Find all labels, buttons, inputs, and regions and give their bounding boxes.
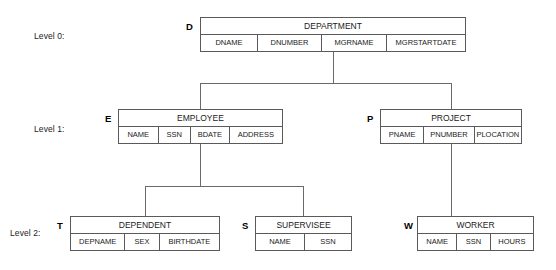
- record-box-dependent[interactable]: DEPENDENT DEPNAME SEX BIRTHDATE: [70, 216, 220, 251]
- record-title-project: PROJECT: [381, 110, 521, 127]
- connector-project-riser: [451, 83, 452, 109]
- field-depname: DEPNAME: [71, 234, 125, 250]
- field-worker-hours: HOURS: [491, 234, 533, 250]
- hierarchical-schema-diagram: Level 0: Level 1: Level 2: D DEPARTMENT …: [0, 0, 556, 270]
- field-worker-name: NAME: [418, 234, 457, 250]
- level-label-2: Level 2:: [10, 228, 41, 238]
- field-employee-address: ADDRESS: [230, 127, 282, 143]
- record-tag-employee: E: [105, 113, 111, 124]
- connector-level1-bus: [145, 186, 304, 187]
- record-fields-department: DNAME DNUMBER MGRNAME MGRSTARTDATE: [201, 35, 465, 51]
- connector-employee-drop: [200, 142, 201, 186]
- record-title-worker: WORKER: [418, 217, 533, 234]
- field-employee-name: NAME: [119, 127, 159, 143]
- record-fields-worker: NAME SSN HOURS: [418, 234, 533, 250]
- connector-department-drop: [333, 51, 334, 83]
- field-dnumber: DNUMBER: [258, 35, 322, 51]
- record-tag-worker: W: [404, 220, 413, 231]
- level-label-1: Level 1:: [34, 124, 65, 134]
- field-supervisee-ssn: SSN: [305, 234, 351, 250]
- record-tag-supervisee: S: [242, 220, 248, 231]
- connector-project-worker: [451, 142, 452, 216]
- field-worker-ssn: SSN: [457, 234, 490, 250]
- record-title-supervisee: SUPERVISEE: [256, 217, 351, 234]
- field-supervisee-name: NAME: [256, 234, 305, 250]
- record-tag-project: P: [367, 113, 373, 124]
- connector-level0-bus: [200, 83, 452, 84]
- record-fields-project: PNAME PNUMBER PLOCATION: [381, 127, 521, 143]
- field-birthdate: BIRTHDATE: [160, 234, 219, 250]
- record-box-project[interactable]: PROJECT PNAME PNUMBER PLOCATION: [380, 109, 522, 144]
- field-plocation: PLOCATION: [475, 127, 521, 143]
- record-fields-supervisee: NAME SSN: [256, 234, 351, 250]
- field-dname: DNAME: [201, 35, 258, 51]
- field-mgrstartdate: MGRSTARTDATE: [387, 35, 465, 51]
- level-label-0: Level 0:: [34, 31, 65, 41]
- record-tag-department: D: [186, 21, 193, 32]
- connector-dependent-riser: [145, 186, 146, 216]
- record-box-employee[interactable]: EMPLOYEE NAME SSN BDATE ADDRESS: [118, 109, 283, 144]
- record-tag-dependent: T: [57, 220, 63, 231]
- field-sex: SEX: [125, 234, 160, 250]
- record-title-dependent: DEPENDENT: [71, 217, 219, 234]
- record-box-worker[interactable]: WORKER NAME SSN HOURS: [417, 216, 534, 251]
- connector-employee-riser: [200, 83, 201, 109]
- record-title-employee: EMPLOYEE: [119, 110, 282, 127]
- field-pname: PNAME: [381, 127, 424, 143]
- field-mgrname: MGRNAME: [322, 35, 387, 51]
- record-fields-dependent: DEPNAME SEX BIRTHDATE: [71, 234, 219, 250]
- record-box-supervisee[interactable]: SUPERVISEE NAME SSN: [255, 216, 352, 251]
- record-box-department[interactable]: DEPARTMENT DNAME DNUMBER MGRNAME MGRSTAR…: [200, 17, 466, 52]
- record-title-department: DEPARTMENT: [201, 18, 465, 35]
- field-pnumber: PNUMBER: [424, 127, 474, 143]
- connector-supervisee-riser: [303, 186, 304, 216]
- field-employee-bdate: BDATE: [191, 127, 230, 143]
- record-fields-employee: NAME SSN BDATE ADDRESS: [119, 127, 282, 143]
- field-employee-ssn: SSN: [159, 127, 192, 143]
